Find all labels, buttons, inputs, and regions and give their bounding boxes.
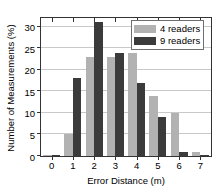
bar <box>107 57 116 156</box>
x-tick-label: 0 <box>49 160 54 171</box>
y-tick-label: 0 <box>7 151 35 162</box>
bar <box>43 155 52 156</box>
legend-swatch-9-readers <box>134 37 156 45</box>
x-tick-label: 7 <box>198 160 203 171</box>
legend-label-9-readers: 9 readers <box>160 36 200 46</box>
bar <box>86 57 95 156</box>
bar <box>115 53 124 157</box>
bar <box>179 152 188 156</box>
y-tick-label: 30 <box>7 22 35 33</box>
bar <box>137 83 146 156</box>
legend-swatch-4-readers <box>134 25 156 33</box>
bar-chart-figure: Number of Measurements (%) 051015202530 … <box>0 0 224 194</box>
bar <box>171 113 180 156</box>
legend: 4 readers 9 readers <box>131 20 204 50</box>
x-tick-label: 6 <box>176 160 181 171</box>
bar <box>200 155 209 156</box>
x-tick-label: 3 <box>113 160 118 171</box>
bar <box>158 117 167 156</box>
y-tick-label: 5 <box>7 129 35 140</box>
legend-item-9-readers: 9 readers <box>134 35 200 47</box>
y-tick-label: 20 <box>7 65 35 76</box>
x-tick-label: 5 <box>155 160 160 171</box>
bar <box>192 152 201 156</box>
bar <box>73 78 82 156</box>
bar <box>64 134 73 156</box>
bar <box>94 22 103 156</box>
y-tick-label: 15 <box>7 86 35 97</box>
x-axis-title: Error Distance (m) <box>40 175 212 186</box>
x-tick-label: 2 <box>91 160 96 171</box>
y-tick-label: 25 <box>7 43 35 54</box>
bar <box>128 53 137 157</box>
legend-item-4-readers: 4 readers <box>134 23 200 35</box>
y-tick-label: 10 <box>7 108 35 119</box>
x-tick-label: 1 <box>70 160 75 171</box>
bar <box>52 155 61 156</box>
legend-label-4-readers: 4 readers <box>160 24 200 34</box>
x-tick-label: 4 <box>134 160 139 171</box>
bar <box>149 96 158 156</box>
